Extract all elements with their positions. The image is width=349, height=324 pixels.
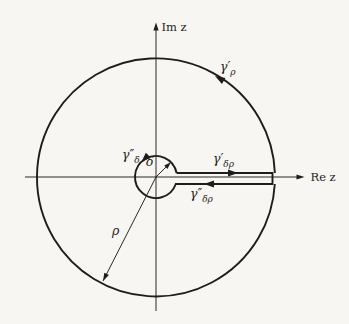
label-im-axis: Im z (162, 20, 187, 34)
label-re-axis: Re z (311, 170, 336, 184)
label-rho-radius: ρ (111, 223, 120, 238)
keyhole-contour-figure: Im z Re z γ′ρ γ′δρ γ″δρ γ″δ ρ δ (0, 0, 349, 324)
label-delta-radius: δ (146, 154, 154, 169)
figure-background (0, 0, 349, 324)
